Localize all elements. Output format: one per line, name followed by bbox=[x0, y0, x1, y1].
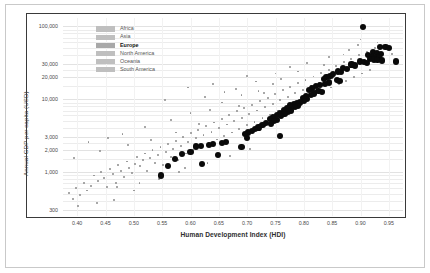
gridline-vertical bbox=[77, 18, 78, 216]
data-point bbox=[86, 190, 88, 192]
gridline-vertical bbox=[304, 18, 305, 216]
data-point bbox=[187, 149, 193, 155]
legend-swatch bbox=[96, 67, 115, 72]
data-point bbox=[289, 86, 291, 88]
data-point bbox=[172, 156, 178, 162]
gridline-major bbox=[63, 137, 403, 138]
data-point bbox=[205, 125, 207, 127]
data-point bbox=[126, 161, 128, 163]
data-point bbox=[279, 99, 281, 101]
data-point bbox=[336, 78, 342, 84]
data-point bbox=[289, 66, 291, 68]
gridline-vertical bbox=[361, 18, 362, 216]
data-point bbox=[144, 126, 146, 128]
data-point bbox=[157, 154, 159, 156]
data-point bbox=[213, 122, 215, 124]
data-point bbox=[264, 106, 266, 108]
data-point bbox=[274, 93, 276, 95]
legend-item-asia[interactable]: Asia bbox=[96, 33, 174, 41]
data-point bbox=[122, 133, 124, 135]
legend-swatch bbox=[96, 35, 115, 40]
data-point bbox=[180, 145, 182, 147]
gridline-minor bbox=[63, 115, 403, 116]
legend-item-africa[interactable]: Africa bbox=[96, 25, 174, 33]
data-point bbox=[328, 69, 330, 71]
data-point bbox=[319, 89, 325, 95]
data-point bbox=[246, 75, 248, 77]
data-point bbox=[198, 123, 200, 125]
gridline-vertical bbox=[332, 18, 333, 216]
data-point bbox=[263, 92, 265, 94]
gridline-major bbox=[63, 210, 403, 211]
data-point bbox=[255, 81, 257, 83]
data-point bbox=[335, 65, 337, 67]
data-point bbox=[167, 143, 169, 145]
data-point bbox=[241, 94, 243, 96]
data-point bbox=[282, 89, 284, 91]
data-point bbox=[350, 58, 352, 60]
data-point bbox=[204, 96, 206, 98]
data-point bbox=[243, 107, 245, 109]
gridline-major bbox=[63, 99, 403, 100]
x-axis-title: Human Development Index (HDI) bbox=[63, 231, 403, 238]
data-point bbox=[199, 161, 205, 167]
legend-item-north-america[interactable]: North America bbox=[96, 49, 174, 57]
data-point bbox=[96, 202, 98, 204]
legend-item-south-america[interactable]: South America bbox=[96, 65, 174, 73]
legend-item-europe[interactable]: Europe bbox=[96, 41, 174, 49]
legend-label: Asia bbox=[120, 34, 131, 39]
data-point bbox=[134, 163, 136, 165]
data-point bbox=[100, 171, 102, 173]
legend-item-oceania[interactable]: Oceania bbox=[96, 57, 174, 65]
data-point bbox=[68, 192, 70, 194]
data-point bbox=[107, 137, 109, 139]
legend-label: Europe bbox=[120, 43, 139, 48]
gridline-minor bbox=[63, 106, 403, 107]
data-point bbox=[297, 82, 299, 84]
data-point bbox=[323, 64, 325, 66]
data-point bbox=[244, 135, 250, 141]
data-point bbox=[391, 53, 393, 55]
data-point bbox=[112, 173, 114, 175]
x-tick-label: 0.85 bbox=[327, 221, 337, 226]
data-point bbox=[79, 194, 81, 196]
data-point bbox=[218, 127, 220, 129]
y-tick-label: 20,000 bbox=[42, 75, 61, 80]
legend-swatch bbox=[96, 43, 115, 48]
x-tick-label: 0.80 bbox=[299, 221, 309, 226]
legend-label: South America bbox=[120, 67, 155, 72]
data-point bbox=[238, 128, 240, 130]
data-point bbox=[277, 133, 283, 139]
data-point bbox=[203, 134, 205, 136]
data-point bbox=[170, 119, 172, 121]
data-point bbox=[231, 132, 233, 134]
y-tick-label: 30,000 bbox=[42, 62, 61, 67]
gridline-major bbox=[63, 77, 403, 78]
data-point bbox=[272, 83, 274, 85]
data-point bbox=[136, 156, 138, 158]
data-point bbox=[258, 90, 260, 92]
y-tick-label: 1,000 bbox=[45, 170, 61, 175]
data-point bbox=[142, 159, 144, 161]
data-point bbox=[287, 96, 289, 98]
data-point bbox=[179, 151, 185, 157]
gridline-minor bbox=[63, 179, 403, 180]
data-point bbox=[165, 163, 171, 169]
data-point bbox=[305, 79, 307, 81]
x-tick-label: 0.50 bbox=[129, 221, 139, 226]
data-point bbox=[235, 88, 237, 90]
gridline-minor bbox=[63, 201, 403, 202]
gridline-minor bbox=[63, 103, 403, 104]
x-tick-label: 0.95 bbox=[384, 221, 394, 226]
data-point bbox=[343, 61, 345, 63]
x-tick-label: 0.45 bbox=[100, 221, 110, 226]
data-point bbox=[175, 140, 177, 142]
data-point bbox=[128, 167, 130, 169]
data-point bbox=[294, 92, 296, 94]
data-point bbox=[238, 144, 244, 150]
x-tick-label: 0.60 bbox=[185, 221, 195, 226]
data-point bbox=[187, 141, 189, 143]
data-point bbox=[154, 162, 156, 164]
data-point bbox=[139, 165, 141, 167]
x-tick-label: 0.40 bbox=[72, 221, 82, 226]
